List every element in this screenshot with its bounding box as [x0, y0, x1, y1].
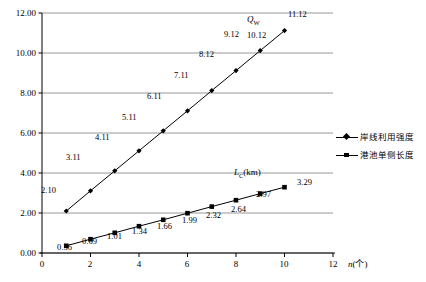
- y-tick-label: 10.00: [2, 48, 36, 58]
- point-label: 2.64: [231, 205, 246, 214]
- series-line-lc: [66, 187, 284, 246]
- y-tick-label: 6.00: [2, 128, 36, 138]
- x-tick-label: 0: [29, 259, 55, 269]
- data-point-marker-square: [234, 198, 239, 203]
- point-label: 0.36: [57, 243, 72, 252]
- series-label-qw-subscript: W: [254, 19, 260, 26]
- chart-figure: 0.00 2.00 4.00 6.00 8.00 10.00 12.00 0 2…: [0, 0, 426, 282]
- x-tick-label: 6: [174, 259, 200, 269]
- point-label: 3.11: [66, 153, 81, 162]
- point-label: 1.01: [107, 232, 122, 241]
- point-label: 9.12: [224, 30, 239, 39]
- point-label: 2.32: [206, 211, 221, 220]
- point-label: 2.10: [41, 186, 56, 195]
- x-tick-label: 2: [77, 259, 103, 269]
- legend-item-shoreline-intensity[interactable]: 岸线利用强度: [336, 128, 426, 146]
- point-label: 3.29: [297, 178, 312, 187]
- point-label: 4.11: [95, 133, 110, 142]
- point-label: 10.12: [247, 31, 266, 40]
- point-label: 11.12: [288, 10, 307, 19]
- x-axis-title: n(个): [348, 259, 368, 269]
- x-axis-title-unit: (个): [353, 259, 368, 269]
- y-tick-label: 12.00: [2, 8, 36, 18]
- series-line-qw: [66, 31, 284, 211]
- point-label: 1.34: [132, 227, 147, 236]
- x-tick-label: 12: [320, 259, 346, 269]
- point-label: 7.11: [174, 71, 189, 80]
- x-tick-label: 4: [126, 259, 152, 269]
- legend-square-marker-icon: [336, 150, 358, 160]
- point-label: 0.69: [82, 237, 97, 246]
- y-tick-label: 0.00: [2, 248, 36, 258]
- x-tick-label: 10: [271, 259, 297, 269]
- point-label: 8.12: [199, 50, 214, 59]
- point-label: 1.99: [182, 216, 197, 225]
- chart-legend: 岸线利用强度 港池单侧长度: [336, 128, 426, 164]
- point-label: 5.11: [122, 113, 137, 122]
- x-tick-label: 8: [223, 259, 249, 269]
- legend-item-basin-length[interactable]: 港池单侧长度: [336, 146, 426, 164]
- point-label: 2.97: [256, 190, 271, 199]
- point-label: 1.66: [157, 222, 172, 231]
- y-tick-label: 8.00: [2, 88, 36, 98]
- series-label-lc-unit: (km): [243, 167, 261, 177]
- legend-item-label: 港池单侧长度: [358, 150, 414, 160]
- legend-diamond-marker-icon: [336, 132, 358, 142]
- y-tick-label: 2.00: [2, 208, 36, 218]
- series-label-qw: QW: [247, 14, 260, 28]
- point-label: 6.11: [147, 92, 162, 101]
- data-point-marker-square: [282, 185, 287, 190]
- y-tick-label: 4.00: [2, 168, 36, 178]
- legend-item-label: 岸线利用强度: [358, 132, 414, 142]
- series-label-lc: LC(km): [234, 167, 261, 181]
- data-point-marker-square: [209, 204, 214, 209]
